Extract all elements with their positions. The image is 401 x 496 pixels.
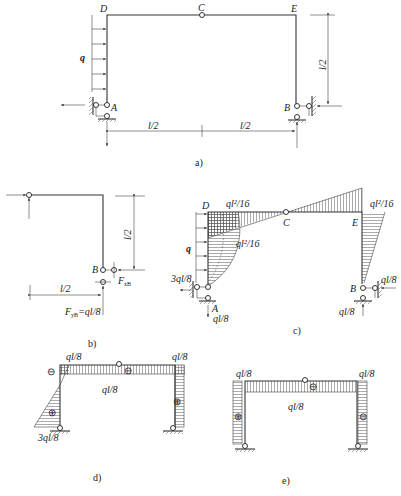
sign-negative-beam: ⊖ <box>124 365 132 376</box>
label-b: B <box>284 102 290 113</box>
label-shear-top-left: ql/8 <box>66 351 82 362</box>
label-e: E <box>290 3 297 14</box>
panel-a: q D C E A <box>61 2 342 169</box>
hinge-c-b <box>27 193 32 198</box>
frame-b <box>29 195 103 271</box>
label-shear-beam: ql/8 <box>102 384 118 395</box>
dimension-lines-a <box>109 15 335 137</box>
frame-a <box>107 15 296 107</box>
sign-negative-right-column-e: ⊖ <box>359 411 367 422</box>
support-b <box>288 96 342 148</box>
frame-d <box>60 365 175 428</box>
distributed-load-arrows <box>92 29 106 89</box>
dim-right-span: l/2 <box>240 120 251 131</box>
sign-positive-left-column-e: ⊕ <box>234 411 242 422</box>
sign-positive-left-column: ⊕ <box>48 407 56 418</box>
structural-frame-figure: q D C E A <box>0 0 401 496</box>
caption-d: d) <box>93 472 101 484</box>
label-shear-top-right: ql/8 <box>172 351 188 362</box>
caption-a: a) <box>195 157 203 169</box>
caption-c: c) <box>293 325 301 337</box>
shear-area-beam <box>60 365 185 374</box>
label-axial-top-left: ql/8 <box>236 368 252 379</box>
label-b-b: B <box>92 264 98 275</box>
label-shear-bottom-left: 3ql/8 <box>37 432 59 443</box>
label-b-c: B <box>350 283 356 294</box>
moment-area-beam-left <box>208 212 286 237</box>
axial-area-beam <box>245 381 357 392</box>
dim-height-b: l/2 <box>122 229 133 240</box>
label-d-c: D <box>201 200 210 211</box>
panel-d: ql/8 ql/8 ql/8 3ql/8 ⊖ ⊖ ⊕ ⊕ d) <box>34 351 188 484</box>
caption-b: b) <box>88 338 96 350</box>
sign-positive-right-column: ⊕ <box>173 396 181 407</box>
label-c: C <box>198 2 205 13</box>
label-axial-beam: ql/8 <box>288 401 304 412</box>
panel-e: ql/8 ql/8 ql/8 ⊕ ⊖ ⊖ e) <box>233 368 375 487</box>
label-q: q <box>80 52 85 63</box>
label-c-c: C <box>283 217 290 228</box>
label-d: D <box>99 3 108 14</box>
support-a <box>61 97 116 146</box>
label-q-c: q <box>186 243 191 254</box>
panel-b: B FxB FyB=ql/8 l/2 l/2 b) <box>6 193 145 351</box>
label-reaction-ax: 3ql/8 <box>170 273 192 284</box>
label-e-c: E <box>351 217 358 228</box>
dim-height: l/2 <box>317 59 328 70</box>
panel-c: q D C E ql²/16 ql²/16 ql²/16 3ql/8 A ql/… <box>170 188 397 337</box>
label-reaction-bx: ql/8 <box>381 274 397 285</box>
sign-negative-left: ⊖ <box>47 366 55 377</box>
dim-span-b: l/2 <box>60 283 71 294</box>
label-reaction-by: ql/8 <box>339 306 355 317</box>
sign-negative-beam-e: ⊖ <box>309 381 317 392</box>
label-moment-e: ql²/16 <box>370 198 394 209</box>
label-axial-top-right: ql/8 <box>359 368 375 379</box>
hinge-c <box>200 13 205 18</box>
caption-e: e) <box>282 475 290 487</box>
label-reaction-ay: ql/8 <box>213 313 229 324</box>
dim-left-span: l/2 <box>148 120 159 131</box>
label-a: A <box>110 102 118 113</box>
label-fxb: FxB <box>117 275 131 287</box>
label-moment-d: ql²/16 <box>226 198 250 209</box>
label-fyb: FyB=ql/8 <box>64 306 100 318</box>
label-moment-mid: ql²/16 <box>236 238 260 249</box>
